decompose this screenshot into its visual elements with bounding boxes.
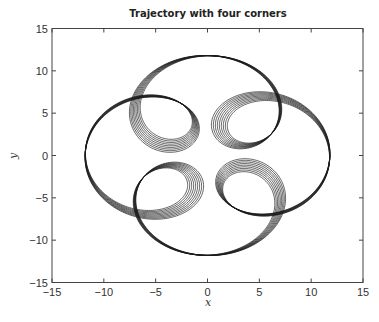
trajectory-strand (85, 56, 329, 255)
chart-title: Trajectory with four corners (129, 8, 286, 19)
y-tick-label: −5 (35, 192, 48, 204)
trajectory-strand (85, 56, 330, 256)
y-axis: −15−10−5051015 (29, 23, 363, 289)
trajectory-strand (85, 56, 329, 255)
trajectory-strand (85, 56, 329, 256)
y-tick-label: 10 (36, 65, 48, 77)
x-tick-label: 10 (305, 286, 317, 298)
x-tick-label: 5 (256, 286, 262, 298)
y-tick-label: 15 (36, 23, 48, 35)
trajectory-strand (85, 55, 330, 255)
trajectory-curve (85, 55, 330, 255)
y-tick-label: −10 (29, 234, 48, 246)
y-tick-label: −15 (29, 277, 48, 289)
x-axis: −15−10−5051015 (43, 29, 369, 298)
trajectory-strand (85, 56, 330, 256)
x-tick-label: −5 (149, 286, 162, 298)
plot-area (52, 29, 363, 283)
x-axis-label: x (205, 296, 212, 309)
y-tick-label: 0 (42, 150, 48, 162)
x-tick-label: −10 (94, 286, 113, 298)
x-tick-label: 15 (357, 286, 369, 298)
y-axis-label: y (7, 152, 20, 160)
trajectory-strand (85, 56, 330, 256)
trajectory-strand (85, 56, 330, 256)
y-tick-label: 5 (42, 107, 48, 119)
axes-frame (52, 29, 363, 283)
chart: Trajectory with four corners −15−10−5051… (0, 0, 379, 322)
trajectory-strand (85, 56, 330, 256)
